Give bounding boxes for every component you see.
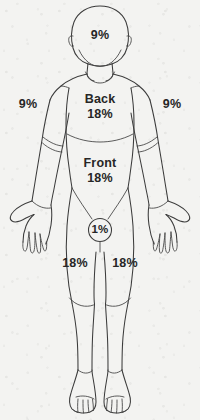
front-percent-value: 18% (0, 171, 200, 186)
right-leg-percent-value: 18% (105, 256, 145, 271)
label-back: Back 18% (0, 92, 200, 122)
back-percent-value: 18% (0, 107, 200, 122)
label-groin-percent: 1% (0, 223, 200, 237)
groin-percent-value: 1% (0, 223, 200, 237)
right-foot-outline (104, 370, 130, 413)
groin-marker (72, 188, 128, 252)
legs-outline (66, 188, 134, 373)
label-right-leg-percent: 18% (105, 256, 145, 271)
label-head-percent: 9% (0, 28, 200, 43)
left-foot-outline (70, 370, 96, 413)
left-leg-percent-value: 18% (55, 256, 95, 271)
back-caption: Back (0, 92, 200, 107)
label-front: Front 18% (0, 156, 200, 186)
rule-of-nines-diagram: 9% 9% 9% Back 18% Front 18% 1% 18% 18% (0, 0, 200, 420)
label-left-leg-percent: 18% (55, 256, 95, 271)
front-caption: Front (0, 156, 200, 171)
body-figure-illustration (0, 0, 200, 420)
head-percent-value: 9% (0, 28, 200, 43)
